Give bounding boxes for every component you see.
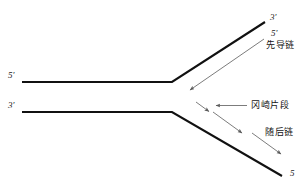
strand-lower-template <box>22 112 282 176</box>
label-upper-left-5prime: 5' <box>8 71 14 80</box>
okazaki-fragment-arrow-2 <box>213 112 242 133</box>
label-lagging-strand: 随后链 <box>265 128 294 137</box>
label-leading-strand: 先导链 <box>266 41 295 50</box>
figure-canvas <box>0 0 308 193</box>
label-lower-right-5prime: 5 <box>290 169 295 178</box>
replication-fork-figure: 5' 3' 3' 5' 5 先导链 冈崎片段 随后链 <box>0 0 308 193</box>
okazaki-fragment-arrow-1 <box>196 102 209 112</box>
label-upper-right-3prime: 3' <box>270 13 276 22</box>
label-lower-left-3prime: 3' <box>8 101 14 110</box>
label-leading-strand-5prime: 5' <box>271 29 277 38</box>
label-okazaki-fragment: 冈崎片段 <box>251 101 289 110</box>
strand-upper-template <box>22 22 265 82</box>
